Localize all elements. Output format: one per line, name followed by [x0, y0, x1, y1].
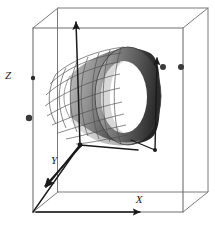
secondary-origin-point	[153, 148, 157, 152]
figure-canvas: Z Y X	[0, 0, 215, 229]
z-axis-label: Z	[5, 69, 12, 81]
x-axis-line	[80, 145, 138, 150]
y-bottom-diagonal-arrow	[45, 147, 80, 186]
x-axis-label: X	[135, 193, 144, 205]
cylinder-near-rim-edge	[64, 76, 70, 118]
shaded-cylinder	[45, 47, 161, 145]
figure-svg: Z Y X	[0, 0, 215, 229]
point-marker-upper-middle	[160, 64, 166, 70]
tick-marker-z-axis	[31, 76, 35, 80]
point-marker-upper-right	[178, 64, 184, 70]
point-marker-left	[26, 115, 32, 121]
